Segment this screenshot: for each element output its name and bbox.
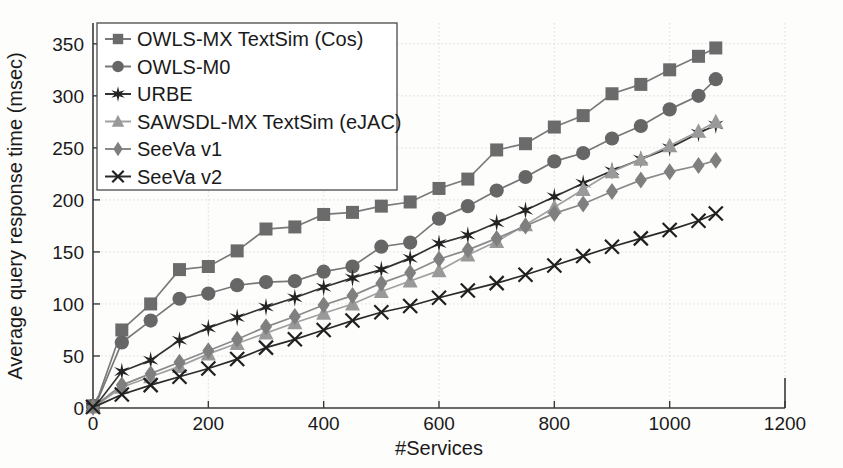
cross-marker xyxy=(490,276,504,290)
x-tick-label: 400 xyxy=(308,413,340,434)
circle-marker xyxy=(547,154,561,168)
x-axis-title: #Services xyxy=(395,437,483,459)
square-marker xyxy=(490,143,503,156)
x-tick-labels: 020040060080010001200 xyxy=(88,413,806,434)
legend-item-label: OWLS-M0 xyxy=(137,56,230,78)
legend-item-label: SeeVa v1 xyxy=(137,138,222,160)
circle-marker xyxy=(201,286,215,300)
circle-marker xyxy=(518,170,532,184)
circle-marker xyxy=(374,240,388,254)
cross-marker xyxy=(288,332,302,346)
cross-marker xyxy=(230,352,244,366)
legend-item-label: SAWSDL-MX TextSim (eJAC) xyxy=(137,111,401,133)
circle-marker xyxy=(115,335,129,349)
y-axis-title: Average query response time (msec) xyxy=(4,52,26,380)
circle-marker xyxy=(144,313,158,327)
circle-marker xyxy=(112,61,124,73)
diamond-marker xyxy=(710,152,722,169)
star-marker xyxy=(258,298,274,316)
square-marker xyxy=(433,182,446,195)
cross-marker xyxy=(709,206,723,220)
star-marker xyxy=(229,308,245,326)
star-marker xyxy=(431,235,447,253)
triangle-marker xyxy=(576,181,591,196)
square-marker xyxy=(260,223,273,236)
square-marker xyxy=(115,323,128,336)
line-chart-svg: 020040060080010001200 050100150200250300… xyxy=(0,0,843,468)
x-tick-label: 0 xyxy=(88,413,99,434)
cross-marker xyxy=(259,341,273,355)
diamond-marker xyxy=(693,157,705,174)
y-tick-label: 0 xyxy=(73,398,84,419)
circle-marker xyxy=(691,89,705,103)
circle-marker xyxy=(634,119,648,133)
cross-marker xyxy=(461,283,475,297)
cross-marker xyxy=(403,299,417,313)
cross-marker xyxy=(663,223,677,237)
circle-marker xyxy=(663,102,677,116)
diamond-marker xyxy=(664,163,676,180)
star-marker xyxy=(201,319,217,337)
star-marker xyxy=(345,269,361,287)
y-tick-label: 200 xyxy=(52,190,84,211)
x-tick-label: 600 xyxy=(423,413,455,434)
x-tick-label: 1200 xyxy=(764,413,806,434)
legend-item-3[interactable]: SAWSDL-MX TextSim (eJAC) xyxy=(105,111,401,133)
square-marker xyxy=(113,34,123,44)
circle-marker xyxy=(230,278,244,292)
x-tick-label: 800 xyxy=(538,413,570,434)
legend-item-0[interactable]: OWLS-MX TextSim (Cos) xyxy=(105,28,363,50)
circle-marker xyxy=(172,292,186,306)
diamond-marker xyxy=(289,308,301,325)
circle-marker xyxy=(317,265,331,279)
square-marker xyxy=(709,41,722,54)
circle-marker xyxy=(403,235,417,249)
star-marker xyxy=(172,331,188,349)
diamond-marker xyxy=(635,172,647,189)
square-marker xyxy=(231,244,244,257)
circle-marker xyxy=(605,131,619,145)
circle-marker xyxy=(709,72,723,86)
triangle-marker xyxy=(708,114,723,129)
cross-marker xyxy=(519,268,533,282)
star-marker xyxy=(518,201,534,219)
diamond-marker xyxy=(577,196,589,213)
square-marker xyxy=(663,63,676,76)
triangle-marker xyxy=(605,164,620,179)
square-marker xyxy=(317,208,330,221)
y-tick-label: 150 xyxy=(52,242,84,263)
cross-marker xyxy=(576,249,590,263)
diamond-marker xyxy=(606,183,618,200)
cross-marker xyxy=(432,291,446,305)
diamond-marker xyxy=(520,217,532,234)
diamond-marker xyxy=(433,251,445,268)
y-tick-labels: 050100150200250300350 xyxy=(52,34,84,419)
square-marker xyxy=(144,297,157,310)
square-marker xyxy=(288,220,301,233)
square-marker xyxy=(375,200,388,213)
y-tick-label: 250 xyxy=(52,138,84,159)
circle-marker xyxy=(432,212,446,226)
square-marker xyxy=(461,173,474,186)
square-marker xyxy=(173,263,186,276)
triangle-marker xyxy=(633,151,648,166)
x-tick-label: 200 xyxy=(192,413,224,434)
square-marker xyxy=(692,50,705,63)
cross-marker xyxy=(374,305,388,319)
square-marker xyxy=(606,87,619,100)
diamond-marker xyxy=(318,296,330,313)
series-5 xyxy=(86,206,723,414)
circle-marker xyxy=(461,199,475,213)
circle-marker xyxy=(288,274,302,288)
y-tick-label: 300 xyxy=(52,86,84,107)
square-marker xyxy=(519,137,532,150)
legend-item-label: URBE xyxy=(137,83,193,105)
star-marker xyxy=(316,278,332,296)
y-tick-label: 350 xyxy=(52,34,84,55)
star-marker xyxy=(489,214,505,232)
circle-marker xyxy=(576,146,590,160)
legend-item-label: OWLS-MX TextSim (Cos) xyxy=(137,28,363,50)
square-marker xyxy=(577,109,590,122)
square-marker xyxy=(404,195,417,208)
cross-marker xyxy=(692,214,706,228)
